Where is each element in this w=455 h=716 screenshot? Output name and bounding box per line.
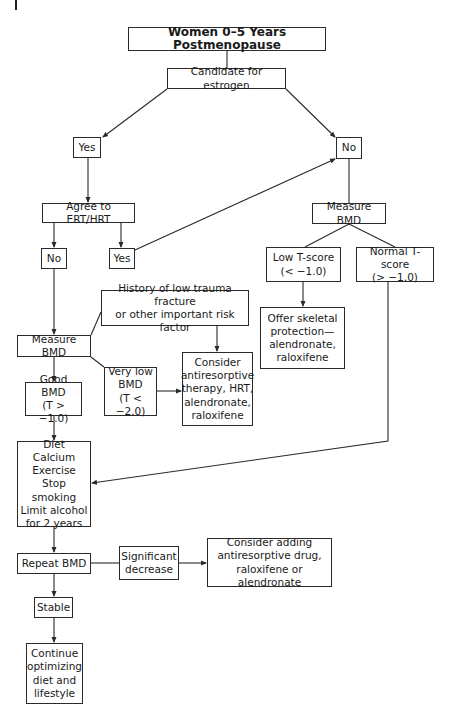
node-significant-decrease: Significant decrease xyxy=(119,546,179,580)
node-consider-antiresorptive: Consider antiresorptive therapy, HRT, al… xyxy=(182,352,253,426)
node-normal-tscore: Normal T-score (> −1.0) xyxy=(356,247,434,282)
node-good-bmd: Good BMD (T > −1.0) xyxy=(25,382,82,416)
node-measure-bmd-left: Measure BMD xyxy=(17,335,91,357)
node-history-risk-factor: History of low trauma fracture or other … xyxy=(101,290,249,326)
node-consider-adding: Consider adding antiresorptive drug, ral… xyxy=(207,538,332,587)
node-lifestyle: Diet Calcium Exercise Stop smoking Limit… xyxy=(17,441,91,527)
node-no-candidate: No xyxy=(336,137,362,159)
flowchart-title: Women 0–5 Years Postmenopause xyxy=(128,27,326,51)
node-low-tscore: Low T-score (< −1.0) xyxy=(266,247,341,282)
node-no-agree: No xyxy=(41,248,67,269)
node-offer-skeletal-protection: Offer skeletal protection— alendronate, … xyxy=(260,307,345,369)
node-measure-bmd-right: Measure BMD xyxy=(312,203,386,224)
node-yes-agree: Yes xyxy=(109,248,135,269)
node-continue-optimizing: Continue optimizing diet and lifestyle xyxy=(26,643,83,704)
node-stable: Stable xyxy=(34,597,73,618)
node-agree-ert-hrt: Agree to ERT/HRT xyxy=(42,203,135,223)
node-very-low-bmd: Very low BMD (T < −2.0) xyxy=(104,367,157,416)
node-yes-candidate: Yes xyxy=(73,137,101,158)
node-repeat-bmd: Repeat BMD xyxy=(17,553,91,574)
node-candidate-for-estrogen: Candidate for estrogen xyxy=(167,68,286,89)
